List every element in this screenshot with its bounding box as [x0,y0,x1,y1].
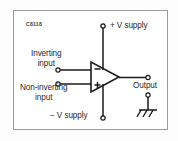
inverting-input-label-line1: Inverting [31,49,62,59]
output-terminal [146,75,150,79]
negative-supply-label: − V supply [50,111,87,121]
inverting-input-label: Inverting input [31,49,62,68]
ground-terminal [146,93,150,97]
noninverting-input-label: Non-inverting input [20,83,67,102]
earth-ground-icon [137,110,157,117]
noninverting-input-label-line1: Non-inverting [20,83,67,93]
inverting-input-terminal [56,68,60,72]
output-label: Output [133,81,157,91]
figure-code-label: C8118 [26,20,42,30]
positive-supply-terminal [101,24,105,28]
opamp-triangle-symbol [91,62,119,92]
inverting-input-label-line2: input [31,59,62,69]
positive-supply-label: + V supply [110,21,147,31]
noninverting-input-label-line2: input [20,93,67,103]
negative-supply-terminal [101,116,105,120]
figure-screenshot: C8118 + V supply − V supply Inverting in… [0,0,178,141]
